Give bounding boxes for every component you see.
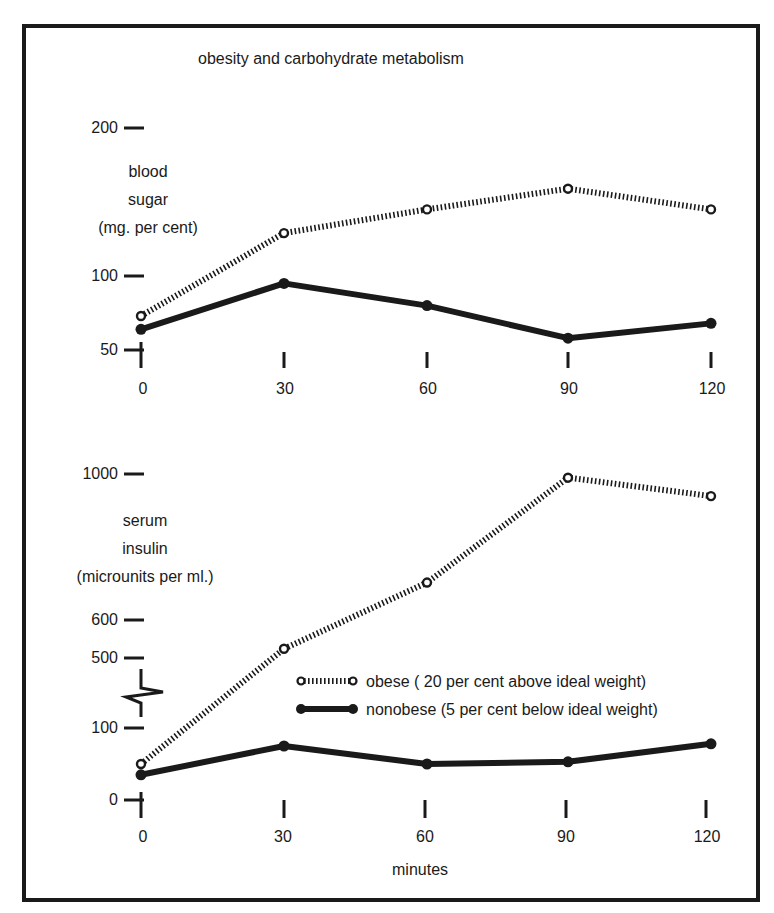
ytick-0: 0 [70, 792, 118, 808]
insulin-nonobese-marker [563, 756, 574, 767]
top-ylabel-line2: sugar [58, 192, 238, 208]
bottom-ylabel-line2: insulin [55, 541, 235, 557]
insulin-obese-marker [423, 579, 431, 587]
top-xtick-0: 0 [118, 381, 168, 397]
ytick-100-insulin: 100 [70, 720, 118, 736]
top-ylabel-line1: blood [58, 164, 238, 180]
sugar-nonobese-marker [136, 324, 147, 335]
sugar-nonobese-marker [279, 278, 290, 289]
ytick-50: 50 [80, 342, 118, 358]
insulin-nonobese-marker [136, 769, 147, 780]
legend-nonobese-marker [348, 704, 358, 714]
sugar-obese-marker [280, 229, 288, 237]
chart-canvas [0, 0, 774, 913]
bottom-xtick-0: 0 [118, 829, 168, 845]
sugar-obese-marker [707, 205, 715, 213]
bottom-xtick-120: 120 [682, 829, 732, 845]
insulin-nonobese-marker [279, 741, 290, 752]
sugar-nonobese-marker [706, 318, 717, 329]
ytick-200: 200 [80, 120, 118, 136]
bottom-ylabel-line1: serum [55, 513, 235, 529]
insulin-obese-marker [707, 492, 715, 500]
chart-title: obesity and carbohydrate metabolism [198, 51, 464, 67]
legend-nonobese-label: nonobese (5 per cent below ideal weight) [366, 702, 658, 718]
top-xtick-90: 90 [544, 381, 594, 397]
insulin-obese-marker [280, 645, 288, 653]
insulin-obese-marker [564, 474, 572, 482]
bottom-xtick-90: 90 [541, 829, 591, 845]
insulin-nonobese-marker [422, 759, 433, 770]
ytick-1000: 1000 [70, 466, 118, 482]
legend-obese-label: obese ( 20 per cent above ideal weight) [366, 674, 646, 690]
sugar-obese-marker [423, 205, 431, 213]
sugar-obese-marker [137, 312, 145, 320]
legend-nonobese-marker [296, 704, 306, 714]
axis-break-icon [126, 669, 163, 717]
insulin-obese-marker [137, 760, 145, 768]
ytick-500: 500 [70, 650, 118, 666]
legend-obese-marker [298, 678, 305, 685]
top-xtick-30: 30 [260, 381, 310, 397]
top-ylabel-line3: (mg. per cent) [58, 220, 238, 236]
ytick-600: 600 [70, 612, 118, 628]
top-xtick-60: 60 [403, 381, 453, 397]
sugar-nonobese-marker [422, 300, 433, 311]
bottom-ylabel-line3: (microunits per ml.) [55, 569, 235, 585]
sugar-obese-marker [564, 185, 572, 193]
legend-obese-marker [350, 678, 357, 685]
sugar-nonobese-marker [563, 333, 574, 344]
top-xtick-120: 120 [687, 381, 737, 397]
bottom-xtick-30: 30 [258, 829, 308, 845]
x-axis-label: minutes [392, 862, 448, 878]
insulin-nonobese-marker [706, 738, 717, 749]
bottom-xtick-60: 60 [400, 829, 450, 845]
ytick-100: 100 [80, 268, 118, 284]
